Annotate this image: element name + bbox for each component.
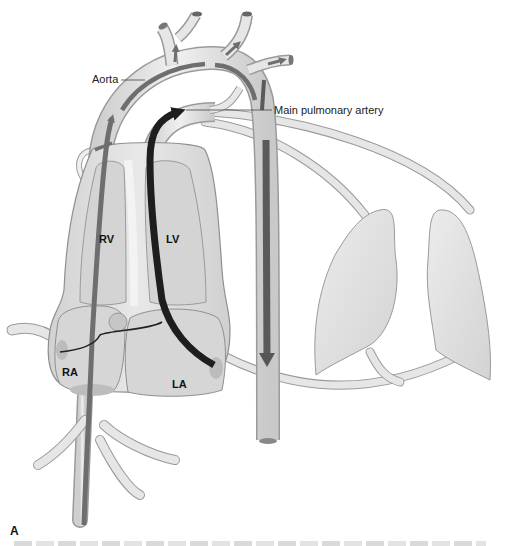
label-right-atrium: RA	[62, 367, 78, 378]
caption-cutoff	[14, 541, 486, 546]
label-right-ventricle: RV	[99, 234, 114, 245]
descending-aorta-arrow	[266, 140, 267, 360]
foramen-ovale	[109, 313, 127, 331]
label-main-pulmonary-artery: Main pulmonary artery	[274, 105, 383, 116]
lower-veins	[38, 395, 175, 520]
diagram-svg	[0, 0, 516, 546]
left-lung	[315, 209, 397, 375]
heart-circulation-diagram: Aorta Main pulmonary artery RV LV RA LA …	[0, 0, 516, 546]
right-lung	[427, 210, 490, 380]
panel-letter: A	[10, 524, 19, 538]
label-left-atrium: LA	[172, 379, 187, 390]
label-aorta: Aorta	[92, 74, 118, 85]
lungs	[315, 209, 491, 380]
label-left-ventricle: LV	[166, 234, 179, 245]
